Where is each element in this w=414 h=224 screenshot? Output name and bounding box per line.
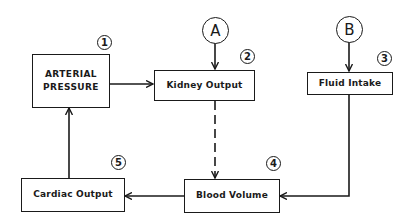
node-number-1: 1 xyxy=(97,35,112,50)
node-arterial-pressure-line1: ARTERIAL xyxy=(43,68,99,81)
input-b-circle: B xyxy=(336,16,363,43)
node-cardiac-output: Cardiac Output xyxy=(21,178,125,212)
node-number-2: 2 xyxy=(240,49,255,64)
input-a-circle: A xyxy=(202,17,229,44)
node-number-4: 4 xyxy=(266,156,281,171)
node-number-5: 5 xyxy=(111,155,126,170)
node-arterial-pressure-line2: PRESSURE xyxy=(43,81,99,94)
node-arterial-pressure: ARTERIAL PRESSURE xyxy=(32,54,110,108)
node-fluid-intake: Fluid Intake xyxy=(307,72,393,95)
node-blood-volume: Blood Volume xyxy=(184,179,280,213)
edge-fluid-to-blood-volume xyxy=(280,94,349,196)
node-kidney-output: Kidney Output xyxy=(154,70,255,101)
node-number-3: 3 xyxy=(377,51,392,66)
